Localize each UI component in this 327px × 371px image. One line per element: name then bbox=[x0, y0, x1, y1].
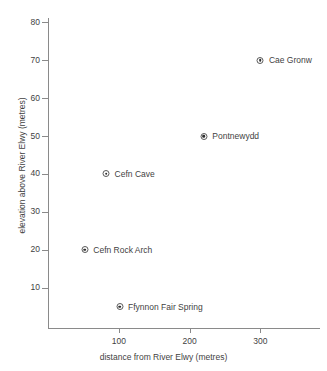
y-axis-tick bbox=[42, 60, 48, 61]
scatter-plot: 1020304050607080 100200300 Cae GronwPont… bbox=[0, 0, 327, 371]
x-axis-tick bbox=[260, 328, 261, 333]
x-axis-tick-label: 300 bbox=[245, 336, 275, 346]
y-axis-tick-label: 10 bbox=[14, 283, 40, 292]
data-point[interactable]: Pontnewydd bbox=[200, 131, 259, 141]
data-point-label: Pontnewydd bbox=[212, 131, 259, 141]
y-axis-tick bbox=[42, 288, 48, 289]
y-axis-tick bbox=[42, 212, 48, 213]
y-axis-line bbox=[48, 18, 49, 329]
circle-dot-marker-icon bbox=[257, 57, 264, 64]
y-axis-tick-label: 80 bbox=[14, 18, 40, 27]
x-axis-title: distance from River Elwy (metres) bbox=[0, 352, 327, 363]
y-axis-tick bbox=[42, 22, 48, 23]
circle-dot-marker-icon bbox=[200, 133, 207, 140]
x-axis-tick bbox=[190, 328, 191, 333]
x-axis-line bbox=[48, 328, 320, 329]
y-axis-tick bbox=[42, 98, 48, 99]
circle-dot-marker-icon bbox=[103, 170, 110, 177]
y-axis-tick-label: 70 bbox=[14, 56, 40, 65]
y-axis-tick bbox=[42, 250, 48, 251]
circle-dot-marker-icon bbox=[81, 246, 88, 253]
y-axis-tick bbox=[42, 136, 48, 137]
data-point[interactable]: Cefn Cave bbox=[103, 169, 155, 179]
data-point-label: Cae Gronw bbox=[269, 55, 312, 65]
x-axis-tick-label: 100 bbox=[104, 336, 134, 346]
data-point-label: Ffynnon Fair Spring bbox=[128, 302, 203, 312]
x-axis-tick bbox=[119, 328, 120, 333]
data-point-label: Cefn Rock Arch bbox=[93, 245, 152, 255]
data-point[interactable]: Cae Gronw bbox=[257, 55, 312, 65]
x-axis-tick-label: 200 bbox=[175, 336, 205, 346]
data-point-label: Cefn Cave bbox=[115, 169, 155, 179]
data-point[interactable]: Cefn Rock Arch bbox=[81, 245, 152, 255]
circle-dot-marker-icon bbox=[116, 303, 123, 310]
y-axis-tick bbox=[42, 174, 48, 175]
data-point[interactable]: Ffynnon Fair Spring bbox=[116, 302, 203, 312]
y-axis-title: elevation above River Elwy (metres) bbox=[17, 66, 28, 266]
